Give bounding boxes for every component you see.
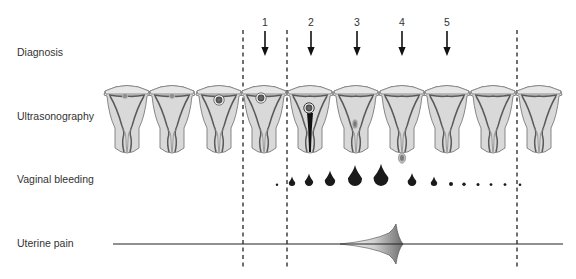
ectopic-timeline-diagram: Diagnosis Ultrasonography Vaginal bleedi… [0,0,576,279]
diagnosis-arrows [261,31,450,56]
blood-drop-icon [408,173,417,186]
uterus-ultrasound-icon [149,86,195,154]
diagram-canvas [0,0,576,279]
blood-drop-icon [504,183,507,186]
gestational-sac-icon [169,93,174,98]
uterus-ultrasound-icon [379,86,425,154]
gestational-sac-icon [122,93,127,98]
uterus-ultrasound-icon [424,86,470,154]
blood-drop-icon [477,183,480,186]
down-arrow-icon [443,31,450,56]
uterus-ultrasound-icon [104,86,150,154]
down-arrow-icon [353,31,360,56]
blood-drop-icon [325,170,335,186]
down-arrow-icon [398,31,405,56]
uterus-ultrasound-icon [196,86,242,154]
down-arrow-icon [307,31,314,56]
dashed-phase-lines [243,30,517,268]
blood-drop-icon [519,183,522,186]
blood-drop-icon [462,183,465,186]
blood-drop-icon [289,176,295,186]
blood-drop-icon [374,164,389,186]
uterus-ultrasound-icon [241,86,287,154]
uterine-pain-curve [113,224,563,264]
uterus-ultrasound-icon [287,86,333,154]
blood-drop-icon [348,165,362,186]
gestational-sac-icon [306,105,313,112]
blood-drop-icon [431,176,437,186]
blood-drop-icon [490,183,493,186]
blood-drop-icon [276,184,278,186]
uterus-ultrasound-icon [470,86,516,154]
blood-drop-icon [449,182,453,186]
blood-drop-icon [305,173,313,186]
bleeding-drops [276,153,522,186]
uterus-ultrasound-icon [516,86,562,154]
ultrasonography-uteri [104,86,562,154]
uterus-ultrasound-icon [333,86,379,154]
down-arrow-icon [261,31,268,56]
